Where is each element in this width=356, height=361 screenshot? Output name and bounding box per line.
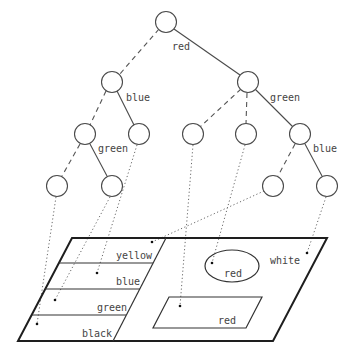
edge-root-to-l1-left [119, 29, 159, 75]
dot-yellow [151, 241, 154, 244]
node-l2-b [129, 124, 150, 145]
link-leaf-rect-red [180, 145, 193, 306]
dot-black [36, 323, 39, 326]
stripe-label-yellow: yellow [116, 250, 153, 261]
edge-label-blue-lower: blue [313, 143, 337, 154]
tree-nodes [47, 12, 338, 197]
node-l2-c [183, 124, 204, 145]
node-l2-e [290, 124, 311, 145]
edge-label-blue-upper: blue [126, 92, 150, 103]
link-leaf-yellow [152, 191, 264, 242]
node-l3-d [317, 176, 338, 197]
edge-l1-left-to-l2-a [90, 91, 106, 125]
edge-l2-a-to-l3-a [62, 144, 80, 176]
dot-rect-red [179, 305, 182, 308]
image-panel [18, 238, 327, 341]
node-l3-c [263, 176, 284, 197]
region-label-ellipse-red: red [224, 268, 242, 279]
edge-label-green-lower: green [98, 143, 128, 154]
stripe-label-green: green [97, 302, 127, 313]
dot-ellipse-red [211, 262, 214, 265]
region-label-rect-red: red [218, 315, 236, 326]
node-root [156, 12, 177, 33]
edge-root-to-l1-right [174, 29, 240, 75]
region-dots [36, 241, 309, 326]
edge-l1-right-to-l2-d [246, 93, 247, 124]
node-l3-a [47, 176, 68, 197]
edge-label-red: red [172, 41, 190, 52]
node-l2-d [236, 124, 257, 145]
link-leaf-ellipse-red [212, 145, 245, 263]
node-l3-b [102, 176, 123, 197]
stripe-label-blue: blue [116, 276, 140, 287]
edge-l2-e-to-l3-c [278, 144, 295, 176]
node-l1-right [238, 72, 259, 93]
link-leaf-green [55, 197, 110, 300]
edge-label-green-upper: green [270, 92, 300, 103]
rect-region [153, 297, 262, 328]
dot-white [306, 252, 309, 255]
partition-tree-diagram: red blue green green blue yellow blue gr… [0, 0, 356, 361]
node-l1-left [102, 72, 123, 93]
dot-green [54, 299, 57, 302]
node-l2-a [75, 124, 96, 145]
dot-blue [96, 272, 99, 275]
link-leaf-black [37, 197, 56, 324]
edge-l1-right-to-l2-c [200, 89, 241, 127]
region-label-white: white [270, 255, 300, 266]
stripe-label-black: black [82, 328, 112, 339]
